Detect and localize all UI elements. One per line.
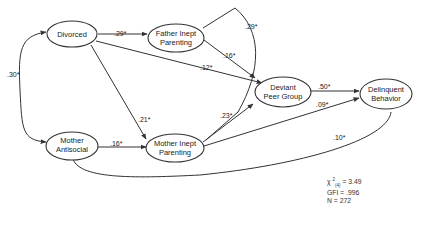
chi-df-sup: 2 [332,177,335,182]
coef-father-inept-deviant-peer: .16* [223,52,236,59]
fit-statistics: χ 2(4) = 3.49 GFI = .996 N = 272 [327,176,361,204]
node-divorced: Divorced [47,21,97,47]
coef-mother-antisocial-delinquent: .10* [333,134,346,141]
chi-value: = 3.49 [342,178,361,185]
coef-mother-antisocial-mother-inept: .16* [110,140,123,147]
coef-father-inept-mother-inept: .29* [245,23,258,30]
coef-divorced-deviant-peer: .12* [200,64,213,71]
node-deviant-peer-group: Deviant Peer Group [255,77,311,107]
node-mother-inept-parenting: Mother Inept Parenting [146,134,204,162]
node-divorced-label: Divorced [57,30,87,39]
node-delinquent-line2: Behavior [371,94,401,103]
node-mother-inept-line2: Parenting [159,148,191,157]
node-father-inept-line2: Parenting [160,38,192,47]
coef-divorced-mother-antisocial: .30* [7,71,20,78]
path-divorced-mother-inept [91,45,146,139]
node-mother-antisocial: Mother Antisocial [46,132,98,160]
coef-divorced-father-inept: .29* [114,30,127,37]
chi-square-stat: χ 2(4) = 3.49 [327,176,361,189]
coef-mother-inept-delinquent: .09* [316,101,329,108]
coef-divorced-mother-inept: .21* [138,116,151,123]
path-mother-inept-deviant-peer [203,104,253,142]
path-father-inept-deviant-peer [204,40,255,78]
coef-mother-inept-deviant-peer: .23* [220,112,233,119]
chi-df-sub: (4) [335,183,341,188]
n-stat: N = 272 [327,197,361,205]
gfi-stat: GFI = .996 [327,189,361,197]
node-deviant-peer-line2: Peer Group [264,92,303,101]
node-mother-antisocial-line2: Antisocial [56,145,88,154]
path-divorced-mother-antisocial [19,32,46,142]
chi-symbol: χ [327,178,331,185]
node-father-inept-parenting: Father Inept Parenting [148,24,204,52]
coef-deviant-peer-delinquent: .50* [318,83,331,90]
node-delinquent-behavior: Delinquent Behavior [360,79,412,109]
